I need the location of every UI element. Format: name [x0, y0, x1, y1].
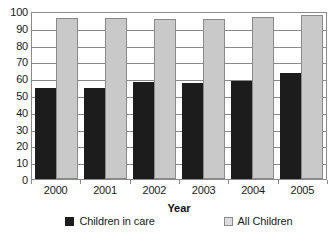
x-tick-label: 2003: [179, 184, 228, 200]
x-axis-labels: 200020012002200320042005: [31, 184, 327, 200]
dark-square-swatch: [65, 217, 74, 226]
bar[interactable]: [252, 17, 273, 179]
bar[interactable]: [133, 82, 154, 179]
plot-area: [31, 12, 327, 180]
bar-group: [280, 13, 322, 179]
y-tick-label: 60: [0, 74, 28, 84]
legend-entry[interactable]: Children in care: [65, 215, 154, 227]
bar[interactable]: [154, 19, 175, 179]
bar-group: [35, 13, 77, 179]
y-tick-label: 20: [0, 141, 28, 151]
y-tick-label: 80: [0, 41, 28, 51]
x-tick-label: 2001: [80, 184, 129, 200]
x-tick-label: 2002: [130, 184, 179, 200]
y-tick-label: 0: [0, 175, 28, 185]
y-tick-label: 50: [0, 91, 28, 101]
bar[interactable]: [203, 19, 224, 179]
bar-group: [231, 13, 273, 179]
y-tick-label: 70: [0, 57, 28, 67]
bar[interactable]: [105, 18, 126, 179]
bars-layer: [32, 13, 326, 179]
plot-wrapper: 1009080706050403020100 20002001200220032…: [0, 12, 336, 187]
grouped-bar-chart: 1009080706050403020100 20002001200220032…: [0, 0, 336, 249]
x-tick-label: 2005: [278, 184, 327, 200]
bar-group: [182, 13, 224, 179]
legend-label: All Children: [238, 215, 293, 227]
y-axis: 1009080706050403020100: [0, 12, 28, 180]
bar[interactable]: [35, 88, 56, 179]
bar[interactable]: [84, 88, 105, 179]
chart-legend: Children in careAll Children: [31, 212, 327, 230]
y-tick-label: 90: [0, 24, 28, 34]
y-tick-label: 100: [0, 7, 28, 17]
bar-group: [133, 13, 175, 179]
bar[interactable]: [231, 81, 252, 179]
bar-group: [84, 13, 126, 179]
y-tick-label: 40: [0, 108, 28, 118]
x-tick-label: 2000: [31, 184, 80, 200]
legend-entry[interactable]: All Children: [224, 215, 293, 227]
y-tick-label: 30: [0, 125, 28, 135]
bar[interactable]: [56, 18, 77, 179]
bar[interactable]: [280, 73, 301, 179]
x-tick: [327, 180, 328, 184]
y-tick-label: 10: [0, 158, 28, 168]
x-tick-label: 2004: [228, 184, 277, 200]
bar[interactable]: [182, 83, 203, 179]
legend-label: Children in care: [79, 215, 154, 227]
light-square-swatch: [224, 217, 233, 226]
bar[interactable]: [301, 15, 322, 179]
